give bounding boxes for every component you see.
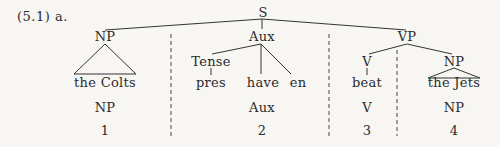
segment-index-2: 2 <box>258 124 267 138</box>
node-aux: Aux <box>249 30 275 44</box>
branch-s-np <box>105 19 262 30</box>
segment-index-1: 1 <box>101 124 110 138</box>
node-np-subject: NP <box>95 30 116 44</box>
terminal-the-jets: the Jets <box>428 76 481 90</box>
node-v: V <box>362 55 372 69</box>
np1-triangle <box>74 44 136 74</box>
segment-index-3: 3 <box>363 124 372 138</box>
segment-category-3: V <box>362 101 372 115</box>
branch-vp-np <box>407 44 452 54</box>
terminal-en: en <box>290 76 307 90</box>
branch-aux-tense <box>212 44 261 54</box>
node-tense: Tense <box>191 55 231 69</box>
segment-category-4: NP <box>444 101 465 115</box>
branch-s-vp <box>262 19 406 30</box>
branch-aux-en <box>261 44 291 74</box>
node-np-object: NP <box>444 55 465 69</box>
terminal-beat: beat <box>352 76 382 90</box>
terminal-the-colts: the Colts <box>74 76 136 90</box>
node-s: S <box>258 6 267 20</box>
segment-category-1: NP <box>95 101 116 115</box>
segment-index-4: 4 <box>450 124 459 138</box>
tree-branches <box>0 0 500 147</box>
node-vp: VP <box>398 30 417 44</box>
branch-vp-v <box>369 44 407 54</box>
terminal-have: have <box>247 76 279 90</box>
terminal-pres: pres <box>196 76 226 90</box>
segment-category-2: Aux <box>249 101 275 115</box>
